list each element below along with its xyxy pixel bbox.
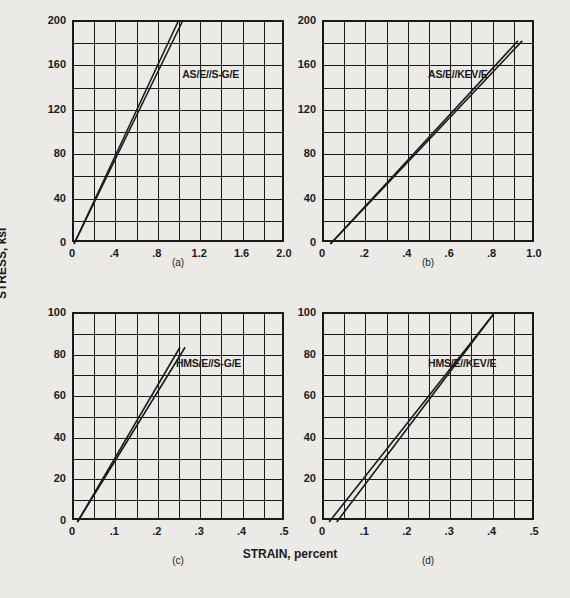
y-tick-label: 100 (280, 307, 316, 318)
series-label: HMS/E//KEV/E (428, 358, 496, 369)
y-tick-label: 0 (280, 515, 316, 526)
x-tick-label: .5 (529, 526, 538, 537)
y-tick-label: 40 (280, 431, 316, 442)
y-tick-label: 80 (280, 348, 316, 359)
x-tick-label: 0 (319, 526, 325, 537)
data-curve-loading (329, 314, 494, 522)
x-tick-label: .3 (445, 526, 454, 537)
y-tick-label: 20 (280, 473, 316, 484)
data-curve-unloading (337, 314, 494, 522)
plot-area (322, 312, 534, 520)
panel-caption: (d) (422, 556, 434, 566)
panel-d: 0204060801000.1.2.3.4.5HMS/E//KEV/E(d) (0, 0, 570, 598)
stress-strain-figure: STRESS, ksi STRAIN, percent 040801201602… (0, 0, 570, 598)
curve-group (324, 314, 536, 522)
y-tick-label: 60 (280, 390, 316, 401)
x-tick-label: .2 (402, 526, 411, 537)
x-tick-label: .4 (487, 526, 496, 537)
x-tick-label: .1 (360, 526, 369, 537)
